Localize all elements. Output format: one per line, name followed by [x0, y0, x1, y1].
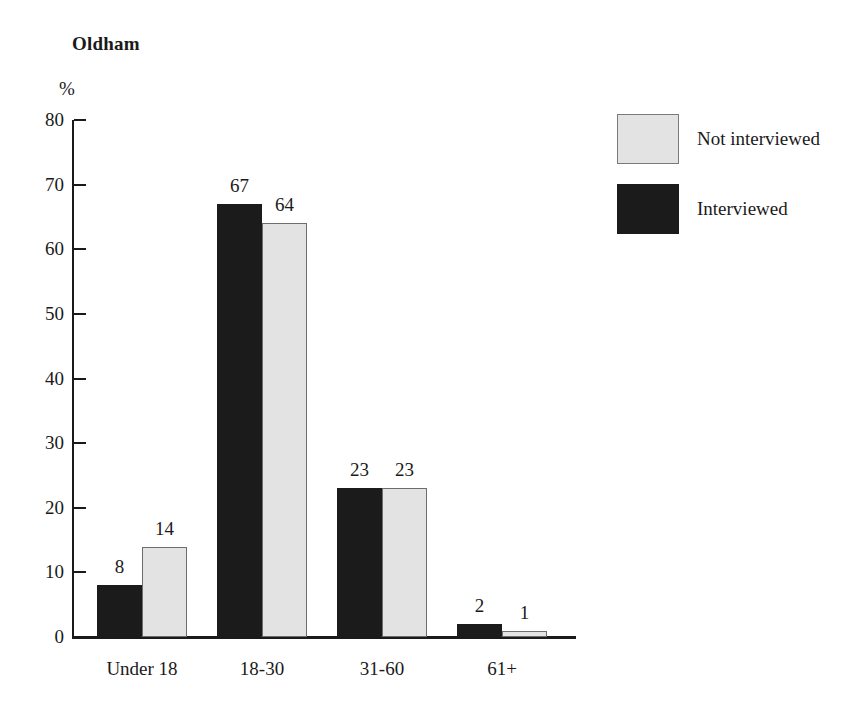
x-axis-category-label: Under 18: [97, 658, 187, 680]
y-axis-tick-label: 40: [18, 369, 64, 388]
chart-legend: Not interviewed Interviewed: [617, 114, 847, 254]
legend-item-not-interviewed: Not interviewed: [617, 114, 847, 184]
y-axis-tick-label: 0: [18, 627, 64, 646]
y-axis-tick-label: 70: [18, 175, 64, 194]
bar-61--interviewed: [457, 624, 502, 637]
bar-under-18-not-interviewed: [142, 547, 187, 637]
y-axis-tick-label-wrap: 80: [12, 110, 64, 129]
y-axis-tick-label-wrap: 0: [12, 627, 64, 646]
bar-value-label: 23: [337, 460, 382, 479]
y-axis-tick-label: 60: [18, 239, 64, 258]
x-axis-category-label: 18-30: [217, 658, 307, 680]
bar-value-label: 64: [262, 195, 307, 214]
bar-under-18-interviewed: [97, 585, 142, 637]
y-axis-tick-label: 50: [18, 304, 64, 323]
legend-swatch-not-interviewed: [617, 114, 679, 164]
y-axis-tick-label: 20: [18, 498, 64, 517]
legend-item-interviewed: Interviewed: [617, 184, 847, 254]
y-axis-tick-label-wrap: 60: [12, 239, 64, 258]
x-axis-category-label: 61+: [457, 658, 547, 680]
x-axis-category-label: 31-60: [337, 658, 427, 680]
bar-value-label: 14: [142, 519, 187, 538]
y-axis-tick-label: 10: [18, 562, 64, 581]
legend-swatch-interviewed: [617, 184, 679, 234]
y-axis-tick-label: 30: [18, 433, 64, 452]
bar-value-label: 1: [502, 603, 547, 622]
y-axis-tick-label-wrap: 20: [12, 498, 64, 517]
bar-31-60-not-interviewed: [382, 488, 427, 637]
y-axis-tick-label-wrap: 70: [12, 175, 64, 194]
bar-18-30-interviewed: [217, 204, 262, 637]
bar-value-label: 8: [97, 557, 142, 576]
bar-61--not-interviewed: [502, 631, 547, 637]
y-axis-tick-label-wrap: 40: [12, 369, 64, 388]
legend-label-interviewed: Interviewed: [697, 198, 788, 220]
chart-title: Oldham: [72, 33, 140, 55]
bar-31-60-interviewed: [337, 488, 382, 637]
y-axis-tick-label-wrap: 30: [12, 433, 64, 452]
y-axis-unit-label: %: [59, 78, 75, 100]
legend-label-not-interviewed: Not interviewed: [697, 128, 820, 150]
bar-value-label: 2: [457, 596, 502, 615]
y-axis-tick-label-wrap: 50: [12, 304, 64, 323]
y-axis-tick-label: 80: [18, 110, 64, 129]
bar-value-label: 67: [217, 176, 262, 195]
bar-18-30-not-interviewed: [262, 223, 307, 637]
bar-chart: Oldham % 01020304050607080 8146764232321…: [0, 0, 853, 725]
plot-area: [74, 120, 576, 637]
y-axis-tick-label-wrap: 10: [12, 562, 64, 581]
bar-value-label: 23: [382, 460, 427, 479]
